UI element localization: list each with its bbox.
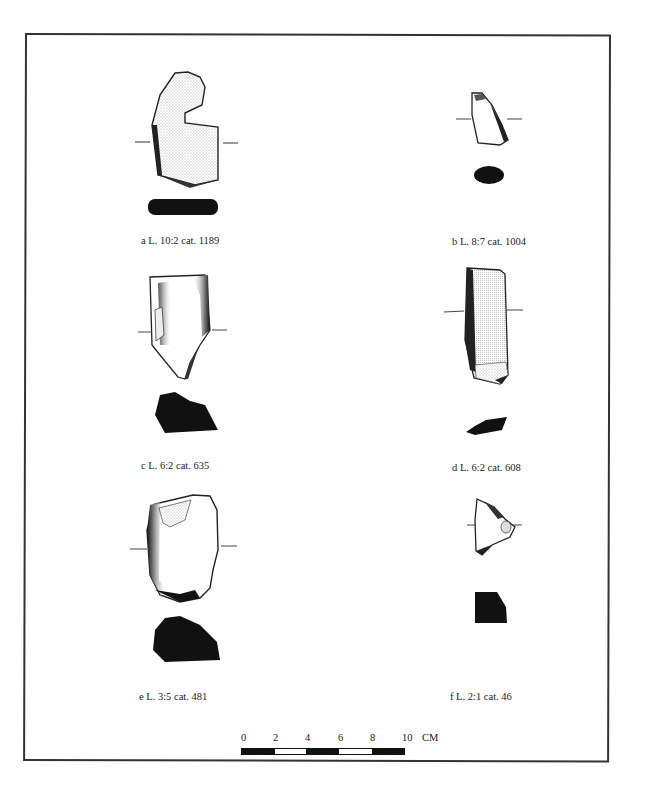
scale-label-6: 6: [338, 732, 343, 743]
scale-label-0: 0: [241, 732, 246, 743]
scale-segment: [372, 749, 404, 754]
artifact-f-caption: f L. 2:1 cat. 46: [450, 691, 512, 702]
scale-segment: [242, 749, 275, 754]
artifact-b-caption: b L. 8:7 cat. 1004: [452, 236, 526, 247]
scale-label-4: 4: [305, 732, 310, 743]
scale-segment: [275, 749, 306, 754]
scale-segment: [339, 749, 372, 754]
artifact-d-caption: d L. 6:2 cat. 608: [452, 462, 521, 473]
scale-label-8: 8: [370, 732, 375, 743]
scale-unit: CM: [422, 732, 438, 743]
scale-bar: [241, 748, 405, 755]
artifact-c-caption: c L. 6:2 cat. 635: [141, 460, 209, 471]
scale-labels: 0 2 4 6 8 10 CM: [236, 732, 456, 746]
scale-label-2: 2: [273, 732, 278, 743]
scale-segment: [306, 749, 339, 754]
scale-label-10: 10: [402, 732, 413, 743]
artifact-a-caption: a L. 10:2 cat. 1189: [141, 235, 219, 246]
artifact-e-caption: e L. 3:5 cat. 481: [139, 691, 207, 702]
